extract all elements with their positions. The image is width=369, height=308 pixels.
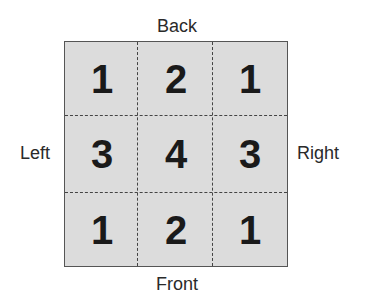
right-label: Right xyxy=(297,143,339,164)
cell-front-right: 1 xyxy=(213,193,287,268)
front-label: Front xyxy=(0,274,354,295)
cell-middle-center: 4 xyxy=(139,117,213,192)
cell-front-left: 1 xyxy=(65,193,139,268)
cell-front-center: 2 xyxy=(139,193,213,268)
cell-back-left: 1 xyxy=(65,42,139,117)
cell-back-right: 1 xyxy=(213,42,287,117)
grid-diagram: 1 2 1 3 4 3 1 2 1 xyxy=(64,41,288,267)
back-label: Back xyxy=(0,16,354,37)
cell-back-center: 2 xyxy=(139,42,213,117)
cell-middle-left: 3 xyxy=(65,117,139,192)
left-label: Left xyxy=(20,143,50,164)
cell-middle-right: 3 xyxy=(213,117,287,192)
